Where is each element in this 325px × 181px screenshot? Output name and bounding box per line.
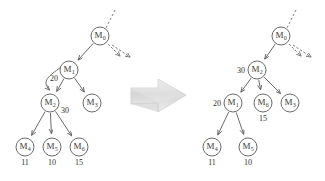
tree-node-m2[interactable]: M2: [41, 94, 59, 112]
node-label: M: [86, 97, 94, 107]
node-weight-label: 30: [237, 66, 245, 75]
tree-edge: [259, 80, 261, 90]
node-value-label: 15: [75, 158, 83, 167]
node-subscript: 1: [236, 102, 239, 108]
tree-node-m3[interactable]: M3: [83, 94, 101, 112]
tree-edge: [56, 111, 72, 135]
tree-node-m3[interactable]: M3: [281, 94, 299, 112]
node-subscript: 4: [215, 146, 218, 152]
node-value-label: 11: [208, 158, 216, 167]
node-value-label: 10: [244, 158, 252, 167]
node-label: M: [257, 97, 265, 107]
tree-before-nodes: M0M120M230M3M411M510M615: [16, 27, 109, 167]
node-label: M: [242, 141, 250, 151]
node-subscript: 4: [28, 146, 31, 152]
incoming-dotted-edge: [106, 10, 115, 28]
node-subscript: 3: [293, 102, 296, 108]
tree-edge: [236, 112, 243, 134]
tree-edge: [241, 78, 251, 92]
tree-edge: [264, 77, 280, 93]
tree-node-m4[interactable]: M4: [203, 138, 221, 156]
heap-restructure-figure: M0M120M230M3M411M510M615 M0M230M120M615M…: [0, 0, 325, 181]
node-subscript: 6: [266, 102, 269, 108]
node-subscript: 3: [95, 102, 98, 108]
tree-edge: [50, 113, 51, 134]
node-label: M: [275, 30, 283, 40]
node-label: M: [73, 141, 81, 151]
tree-node-m5[interactable]: M5: [43, 138, 61, 156]
node-subscript: 2: [260, 69, 263, 75]
incoming-dotted-edge: [287, 10, 296, 28]
node-weight-label: 30: [61, 106, 69, 115]
tree-edge: [78, 43, 93, 60]
node-label: M: [94, 30, 102, 40]
node-subscript: 6: [82, 146, 85, 152]
tree-before-edges: [32, 10, 130, 136]
node-label: M: [63, 64, 71, 74]
node-label: M: [44, 97, 52, 107]
tree-after-nodes: M0M230M120M615M3M411M510: [203, 27, 299, 167]
node-subscript: 0: [103, 35, 106, 41]
node-subscript: 1: [72, 69, 75, 75]
node-subscript: 5: [251, 146, 254, 152]
tree-node-m0[interactable]: M0: [272, 27, 290, 45]
tree-edge: [265, 44, 275, 59]
node-subscript: 0: [284, 35, 287, 41]
tree-edge: [218, 112, 229, 135]
tree-edge: [32, 112, 45, 136]
tree-node-m5[interactable]: M5: [239, 138, 257, 156]
tree-node-m6[interactable]: M6: [254, 94, 272, 112]
node-label: M: [284, 97, 292, 107]
tree-node-m6[interactable]: M6: [70, 138, 88, 156]
node-value-label: 10: [48, 158, 56, 167]
node-label: M: [46, 141, 54, 151]
node-label: M: [227, 97, 235, 107]
node-weight-label: 20: [50, 74, 58, 83]
node-value-label: 15: [259, 114, 267, 123]
node-value-label: 11: [21, 158, 29, 167]
node-weight-label: 20: [213, 99, 221, 108]
tree-node-m4[interactable]: M4: [16, 138, 34, 156]
tree-node-m0[interactable]: M0: [91, 27, 109, 45]
tree-node-m1[interactable]: M1: [60, 61, 78, 79]
tree-edge: [75, 78, 85, 92]
node-label: M: [251, 64, 259, 74]
node-label: M: [206, 141, 214, 151]
node-label: M: [19, 141, 27, 151]
tree-node-m1[interactable]: M1: [224, 94, 242, 112]
tree-node-m2[interactable]: M2: [248, 61, 266, 79]
node-subscript: 5: [55, 146, 58, 152]
transition-arrow: [131, 79, 186, 112]
node-subscript: 2: [53, 102, 56, 108]
